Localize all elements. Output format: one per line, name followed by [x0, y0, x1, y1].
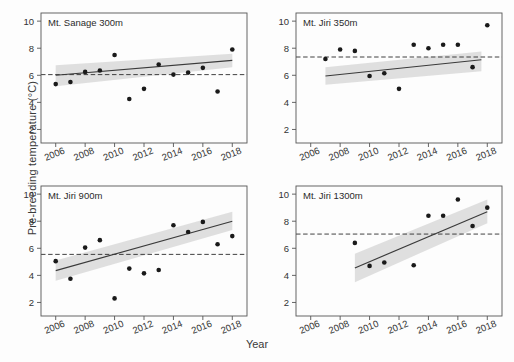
svg-text:2012: 2012	[131, 145, 155, 163]
svg-text:4: 4	[284, 97, 289, 108]
svg-text:2012: 2012	[386, 318, 410, 336]
svg-text:2: 2	[284, 297, 289, 308]
svg-text:2006: 2006	[43, 145, 67, 163]
svg-text:10: 10	[278, 189, 289, 200]
svg-text:2016: 2016	[445, 318, 469, 336]
svg-text:2008: 2008	[72, 318, 96, 336]
svg-text:2016: 2016	[190, 318, 214, 336]
svg-text:2014: 2014	[160, 318, 184, 336]
svg-text:2: 2	[29, 124, 34, 135]
svg-text:2008: 2008	[72, 145, 96, 163]
svg-text:6: 6	[284, 243, 289, 254]
svg-text:2014: 2014	[415, 145, 439, 163]
svg-text:2008: 2008	[327, 145, 351, 163]
panel-mt-sanage-300m: 2468102006200820102012201420162018	[0, 4, 259, 177]
svg-text:4: 4	[29, 97, 34, 108]
svg-text:6: 6	[29, 243, 34, 254]
svg-text:2010: 2010	[101, 145, 125, 163]
svg-text:6: 6	[29, 70, 34, 81]
svg-text:8: 8	[284, 43, 289, 54]
figure-panel-grid: Pre-breeding temperature (°C) Year 24681…	[0, 0, 514, 362]
svg-text:2012: 2012	[386, 145, 410, 163]
svg-text:2018: 2018	[219, 145, 243, 163]
svg-text:2018: 2018	[474, 318, 498, 336]
panel-title-mt-jiri-1300m: Mt. Jiri 1300m	[303, 190, 363, 201]
svg-text:2018: 2018	[219, 318, 243, 336]
svg-text:2014: 2014	[160, 145, 184, 163]
panel-mt-jiri-900m: 2468102006200820102012201420162018	[0, 177, 259, 350]
svg-text:2: 2	[29, 297, 34, 308]
svg-text:2010: 2010	[356, 145, 380, 163]
svg-text:10: 10	[23, 189, 34, 200]
svg-text:2010: 2010	[101, 318, 125, 336]
svg-text:2014: 2014	[415, 318, 439, 336]
svg-text:2008: 2008	[327, 318, 351, 336]
panel-title-mt-jiri-350m: Mt. Jiri 350m	[303, 17, 357, 28]
svg-text:10: 10	[23, 16, 34, 27]
svg-text:2016: 2016	[445, 145, 469, 163]
svg-text:8: 8	[284, 216, 289, 227]
svg-text:2012: 2012	[131, 318, 155, 336]
svg-text:8: 8	[29, 43, 34, 54]
panel-mt-jiri-1300m: 2468102006200820102012201420162018	[255, 177, 514, 350]
svg-text:2010: 2010	[356, 318, 380, 336]
svg-text:8: 8	[29, 216, 34, 227]
svg-text:10: 10	[278, 16, 289, 27]
svg-text:2006: 2006	[298, 145, 322, 163]
panel-title-mt-jiri-900m: Mt. Jiri 900m	[48, 190, 102, 201]
svg-text:2: 2	[284, 124, 289, 135]
panel-mt-jiri-350m: 2468102006200820102012201420162018	[255, 4, 514, 177]
svg-text:2006: 2006	[43, 318, 67, 336]
panel-title-mt-sanage-300m: Mt. Sanage 300m	[48, 17, 123, 28]
svg-text:4: 4	[284, 270, 289, 281]
svg-text:4: 4	[29, 270, 34, 281]
svg-text:2018: 2018	[474, 145, 498, 163]
svg-text:6: 6	[284, 70, 289, 81]
svg-text:2006: 2006	[298, 318, 322, 336]
svg-text:2016: 2016	[190, 145, 214, 163]
